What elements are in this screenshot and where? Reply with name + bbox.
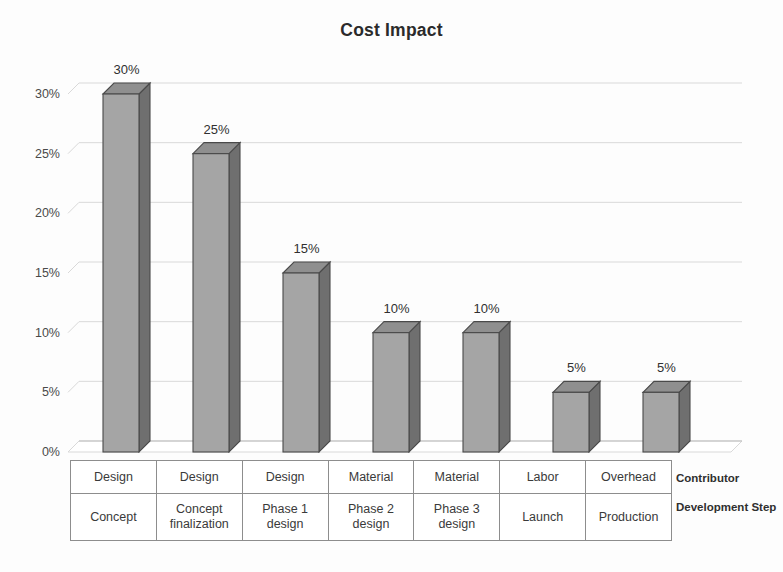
bar-2 (193, 143, 240, 452)
data-label-bar-5: 10% (457, 301, 517, 316)
data-label-bar-6: 5% (547, 360, 607, 375)
y-axis-tick-25pct: 25% (14, 147, 60, 161)
table-row-development-step: ConceptConcept finalizationPhase 1 desig… (71, 494, 672, 541)
y-axis-tick-5pct: 5% (14, 385, 60, 399)
y-axis-tick-0pct: 0% (14, 445, 60, 459)
row-legend-contributor: Contributor (676, 471, 781, 485)
data-label-bar-7: 5% (637, 360, 697, 375)
category-table: DesignDesignDesignMaterialMaterialLaborO… (70, 460, 672, 541)
data-label-bar-2: 25% (187, 122, 247, 137)
table-cell-r2-c4: Phase 2 design (328, 494, 414, 541)
bar-3 (283, 262, 330, 452)
table-row-contributor: DesignDesignDesignMaterialMaterialLaborO… (71, 461, 672, 494)
table-cell-r1-c3: Design (242, 461, 328, 494)
y-axis-tick-20pct: 20% (14, 206, 60, 220)
y-axis-tick-15pct: 15% (14, 266, 60, 280)
data-label-bar-1: 30% (97, 62, 157, 77)
table-cell-r2-c3: Phase 1 design (242, 494, 328, 541)
bar-7 (643, 381, 690, 452)
table-cell-r2-c7: Production (586, 494, 672, 541)
y-axis-tick-30pct: 30% (14, 87, 60, 101)
table-cell-r1-c2: Design (156, 461, 242, 494)
data-label-bar-4: 10% (367, 301, 427, 316)
bar-6 (553, 381, 600, 452)
bar-5 (463, 322, 510, 452)
chart-screenshot: Cost Impact 0%5%10%15%20%25%30% 30%25%15… (0, 0, 783, 572)
data-label-bar-3: 15% (277, 241, 337, 256)
row-legend-development-step: Development Step (676, 500, 781, 514)
table-cell-r1-c7: Overhead (586, 461, 672, 494)
table-cell-r1-c1: Design (71, 461, 157, 494)
table-cell-r1-c6: Labor (500, 461, 586, 494)
table-cell-r1-c5: Material (414, 461, 500, 494)
table-cell-r2-c2: Concept finalization (156, 494, 242, 541)
table-cell-r2-c1: Concept (71, 494, 157, 541)
y-axis-tick-10pct: 10% (14, 326, 60, 340)
bar-4 (373, 322, 420, 452)
bar-1 (103, 83, 150, 452)
table-cell-r1-c4: Material (328, 461, 414, 494)
table-cell-r2-c5: Phase 3 design (414, 494, 500, 541)
table-cell-r2-c6: Launch (500, 494, 586, 541)
